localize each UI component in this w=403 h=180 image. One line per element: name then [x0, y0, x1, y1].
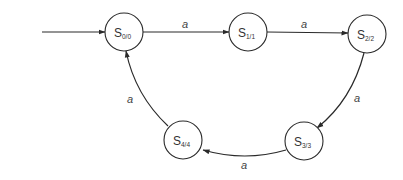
transition-s1-s2: a [267, 18, 348, 33]
state-subscript: 1/1 [246, 33, 255, 40]
state-diagram: a a a a a S 0/0 S 1/1 S 2/2 S 3/3 [0, 0, 403, 180]
transition-s3-s4: a [203, 150, 286, 171]
transition-label: a [182, 18, 188, 30]
state-subscript: 3/3 [302, 142, 311, 149]
state-label: S [357, 28, 365, 42]
transition-label: a [354, 92, 360, 104]
state-subscript: 4/4 [181, 141, 190, 148]
state-s0: S 0/0 [105, 13, 143, 51]
state-label: S [114, 26, 122, 40]
transition-s2-s3: a [317, 53, 364, 128]
state-s3: S 3/3 [285, 122, 323, 160]
state-label: S [294, 135, 302, 149]
state-s4: S 4/4 [164, 121, 202, 159]
state-subscript: 0/0 [122, 33, 131, 40]
state-subscript: 2/2 [365, 35, 374, 42]
transition-label: a [301, 18, 307, 30]
state-label: S [238, 26, 246, 40]
state-s2: S 2/2 [348, 15, 386, 53]
transition-s4-s0: a [126, 51, 168, 126]
transition-label: a [127, 93, 133, 105]
state-label: S [173, 134, 181, 148]
transition-s0-s1: a [143, 18, 229, 32]
transition-label: a [241, 159, 247, 171]
state-s1: S 1/1 [229, 13, 267, 51]
